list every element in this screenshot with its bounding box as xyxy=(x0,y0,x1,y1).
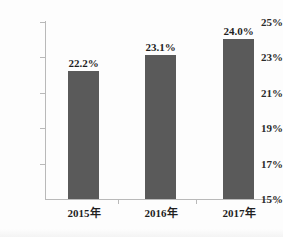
x-axis-label-2016: 2016年 xyxy=(132,207,190,220)
bar-2017 xyxy=(223,39,254,199)
bar-chart: 25% 23% 21% 19% 17% 15% 22.2% 23.1% 24.0… xyxy=(0,0,283,237)
bar-value-2017: 24.0% xyxy=(213,25,264,37)
bar-2015 xyxy=(68,71,99,199)
x-axis-tick-2 xyxy=(277,200,278,204)
x-axis-label-2015: 2015年 xyxy=(55,207,113,220)
bars-layer: 22.2% 23.1% 24.0% xyxy=(0,0,283,200)
bar-value-2015: 22.2% xyxy=(58,57,109,69)
x-axis-tick-1 xyxy=(196,200,197,204)
bar-2016 xyxy=(145,55,176,199)
x-axis-tick-0 xyxy=(118,200,119,204)
scan-edge-shading xyxy=(0,229,283,237)
bar-value-2016: 23.1% xyxy=(135,41,186,53)
x-axis-label-2017: 2017年 xyxy=(210,207,268,220)
